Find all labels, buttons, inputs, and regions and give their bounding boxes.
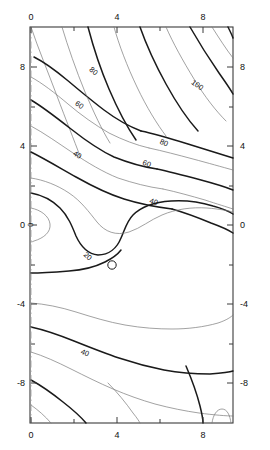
tick-label-top: 4 xyxy=(114,12,119,22)
tick-label-top: 0 xyxy=(28,12,33,22)
tick-label-right: 8 xyxy=(240,62,245,72)
tick-label-top: 8 xyxy=(200,12,205,22)
contour-plot-figure: 0 20 40 40 40 60 60 80 80 100 xyxy=(0,0,270,450)
tick-label-bottom: 4 xyxy=(114,430,119,440)
tick-label-bottom: 8 xyxy=(200,430,205,440)
tick-label-right: 4 xyxy=(240,141,245,151)
tick-label-right: -4 xyxy=(240,299,248,309)
tick-label-left: 8 xyxy=(20,62,25,72)
tick-label-right: -8 xyxy=(240,378,248,388)
tick-label-right: 0 xyxy=(240,220,245,230)
tick-label-left: 4 xyxy=(20,141,25,151)
contour-plot-canvas: 0 20 40 40 40 60 60 80 80 100 xyxy=(0,0,270,450)
tick-label-left: -4 xyxy=(17,299,25,309)
tick-label-left: 0 xyxy=(20,220,25,230)
tick-label-bottom: 0 xyxy=(28,430,33,440)
tick-label-left: -8 xyxy=(17,378,25,388)
